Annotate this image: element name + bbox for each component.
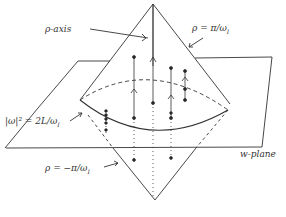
circle-equation-subscript: I	[57, 121, 59, 128]
rho-axis-pointer	[90, 29, 148, 38]
upper-cone	[80, 4, 153, 100]
rho-axis-label: ρ-axis	[45, 25, 71, 34]
rho-bottom-text: ρ = −π/ω	[45, 163, 87, 173]
w-plane-text: w-plane	[240, 149, 276, 159]
rho-top-text: ρ = π/ω	[192, 23, 227, 33]
circle-equation-label: |ω|² = 2L/ωI	[5, 117, 60, 128]
w-plane-label: w-plane	[240, 150, 276, 159]
intersection-circle-back	[80, 80, 228, 110]
rho-bottom-label: ρ = −π/ωI	[45, 164, 90, 175]
cone-diagram	[0, 0, 286, 217]
diagram-canvas: ρ-axis ρ = π/ωI |ω|² = 2L/ωI ρ = −π/ωI w…	[0, 0, 286, 217]
rho-axis-text: ρ-axis	[45, 24, 71, 34]
rho-top-pointer	[189, 38, 203, 47]
rho-top-label: ρ = π/ωI	[192, 24, 229, 35]
rho-bottom-subscript: I	[87, 168, 89, 175]
rho-top-subscript: I	[227, 28, 229, 35]
circle-equation-text: |ω|² = 2L/ω	[5, 116, 57, 126]
lower-cone	[113, 148, 196, 200]
